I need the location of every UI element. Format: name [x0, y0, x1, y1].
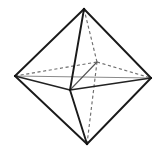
vertex-bottom-apex	[86, 143, 88, 145]
vertex-top-apex	[83, 8, 85, 10]
vertex-left	[14, 75, 16, 77]
octahedron-drawing	[0, 0, 158, 151]
octahedron-figure	[0, 0, 158, 151]
vertex-front	[69, 89, 71, 91]
vertex-right	[150, 77, 152, 79]
figure-background	[0, 0, 158, 151]
